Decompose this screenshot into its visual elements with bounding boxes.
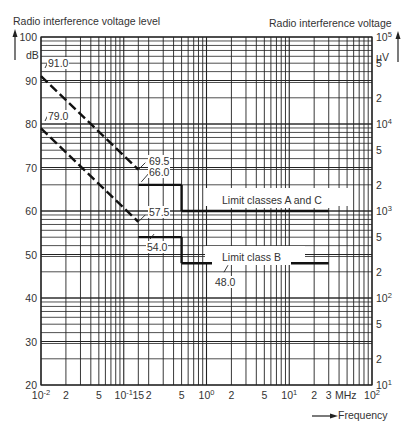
svg-text:2: 2 [146,389,152,401]
svg-text:5: 5 [376,231,382,243]
svg-text:40: 40 [25,292,37,304]
svg-text:2: 2 [376,92,382,104]
x-unit: MHz [335,389,357,401]
svg-text:2: 2 [228,389,234,401]
svg-text:101: 101 [281,388,297,401]
value-54: 54.0 [146,241,168,253]
svg-text:2: 2 [311,389,317,401]
svg-text:102: 102 [376,291,392,304]
y-unit: dB [26,49,39,61]
label-limit-ac: Limit classes A and C [212,192,332,208]
y2-unit: µV [376,51,389,63]
svg-text:80: 80 [25,118,37,130]
value-91: 91.0 [47,57,69,69]
y2-axis-title: Radio interference voltage [269,17,392,29]
value-57-5: 57.5 [148,206,170,218]
svg-text:2: 2 [63,389,69,401]
svg-text:105: 105 [376,30,392,43]
svg-text:5: 5 [261,389,267,401]
svg-text:104: 104 [376,117,392,130]
value-66: 66.0 [148,166,170,178]
x-axis-title: Frequency [338,409,388,421]
svg-text:5: 5 [376,144,382,156]
svg-text:5: 5 [376,318,382,330]
svg-text:2: 2 [376,179,382,191]
svg-text:50: 50 [25,249,37,261]
svg-text:103: 103 [376,204,392,217]
y-axis-title: Radio interference voltage level [13,15,160,27]
svg-text:90: 90 [25,75,37,87]
svg-text:10-2: 10-2 [32,388,50,401]
svg-text:100: 100 [19,31,37,43]
svg-text:15: 15 [132,389,144,401]
svg-text:5: 5 [96,389,102,401]
label-limit-b: Limit class B [212,249,291,265]
svg-text:60: 60 [25,205,37,217]
svg-text:70: 70 [25,162,37,174]
value-79: 79.0 [47,110,69,122]
svg-text:2: 2 [376,266,382,278]
svg-text:2: 2 [376,353,382,365]
svg-text:3: 3 [326,389,332,401]
svg-text:10-1: 10-1 [115,388,133,401]
value-48: 48.0 [214,276,236,288]
svg-text:100: 100 [199,388,215,401]
svg-text:102: 102 [364,388,380,401]
svg-text:5: 5 [179,389,185,401]
svg-text:30: 30 [25,336,37,348]
